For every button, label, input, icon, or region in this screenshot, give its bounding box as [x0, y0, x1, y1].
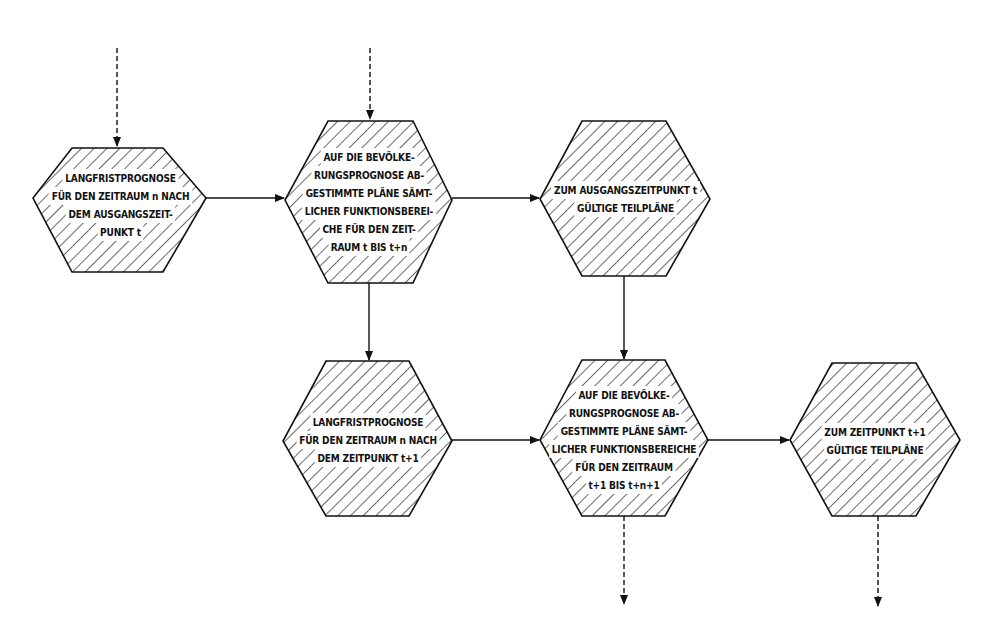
node-label-line: FÜR DEN ZEITRAUM n NACH [49, 187, 192, 205]
node-label-line: GÜLTIGE TEILPLÄNE [824, 441, 926, 459]
node-label-line: FÜR DEN ZEITRAUM [573, 458, 676, 476]
node-label-line: ZUM AUSGANGSZEITPUNKT t [551, 181, 699, 199]
node-label-valid-partial-plans-t: ZUM AUSGANGSZEITPUNKT t GÜLTIGE TEILPLÄN… [546, 178, 705, 220]
node-label-valid-partial-plans-t1: ZUM ZEITPUNKT t+1 GÜLTIGE TEILPLÄNE [797, 420, 954, 462]
node-label-line: GÜLTIGE TEILPLÄNE [574, 199, 676, 217]
node-label-line: CHE FÜR DEN ZEIT- [320, 220, 418, 238]
node-label-line: GESTIMMTE PLÄNE SÄMT- [558, 422, 690, 440]
node-label-longterm-prognosis-t: LANGFRISTPROGNOSE FÜR DEN ZEITRAUM n NAC… [41, 160, 200, 250]
node-label-line: RUNGSPROGNOSE AB- [566, 404, 681, 422]
node-label-line: LANGFRISTPROGNOSE [310, 413, 426, 431]
node-label-coordinated-plans-t1: AUF DIE BEVÖLKE- RUNGSPROGNOSE AB- GESTI… [544, 378, 704, 502]
node-label-line: LICHER FUNKTIONSBEREI- [302, 202, 436, 220]
node-label-coordinated-plans-t: AUF DIE BEVÖLKE- RUNGSPROGNOSE AB- GESTI… [291, 140, 448, 264]
node-label-line: LANGFRISTPROGNOSE [63, 169, 179, 187]
node-label-line: t+1 BIS t+n+1 [586, 476, 662, 494]
node-label-line: PUNKT t [97, 223, 143, 241]
node-label-line: DEM AUSGANGSZEIT- [66, 205, 175, 223]
node-label-line: ZUM ZEITPUNKT t+1 [822, 423, 928, 441]
flowchart-canvas [0, 0, 990, 642]
node-label-line: DEM ZEITPUNKT t+1 [315, 449, 421, 467]
node-label-line: RAUM t BIS t+n [328, 238, 410, 256]
node-label-line: FÜR DEN ZEITRAUM n NACH [297, 431, 440, 449]
node-label-line: AUF DIE BEVÖLKE- [576, 386, 672, 404]
node-label-line: RUNGSPROGNOSE AB- [311, 166, 426, 184]
node-label-longterm-prognosis-t1: LANGFRISTPROGNOSE FÜR DEN ZEITRAUM n NAC… [289, 410, 447, 470]
node-label-line: GESTIMMTE PLÄNE SÄMT- [303, 184, 435, 202]
node-label-line: LICHER FUNKTIONSBEREICHE [549, 440, 699, 458]
node-label-line: AUF DIE BEVÖLKE- [321, 148, 417, 166]
